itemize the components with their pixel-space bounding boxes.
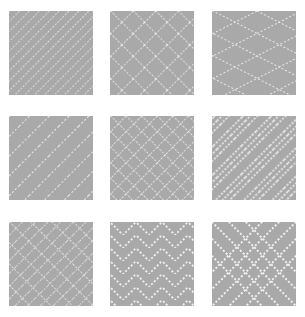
grid-cell: [0, 211, 102, 317]
pattern-tile-7[interactable]: [110, 222, 194, 306]
grid-cell: [0, 0, 102, 106]
pattern-tile-7-art: [110, 222, 194, 306]
pattern-grid-canvas: [0, 0, 305, 317]
pattern-tile-3-art: [9, 116, 93, 200]
pattern-tile-4-art: [110, 116, 194, 200]
grid-cell: [102, 106, 204, 212]
grid-cell: [102, 211, 204, 317]
pattern-tile-5-art: [212, 116, 296, 200]
pattern-tile-4[interactable]: [110, 116, 194, 200]
grid-cell: [0, 106, 102, 212]
pattern-tile-1-art: [110, 11, 194, 95]
grid-cell: [203, 106, 305, 212]
pattern-tile-3[interactable]: [9, 116, 93, 200]
grid-cell: [203, 0, 305, 106]
pattern-tile-1[interactable]: [110, 11, 194, 95]
pattern-tile-0[interactable]: [9, 11, 93, 95]
pattern-tile-2-art: [212, 11, 296, 95]
pattern-tile-8[interactable]: [212, 222, 296, 306]
pattern-tile-5[interactable]: [212, 116, 296, 200]
tile-grid: [0, 0, 305, 317]
pattern-tile-0-art: [9, 11, 93, 95]
pattern-tile-6-art: [9, 222, 93, 306]
grid-cell: [203, 211, 305, 317]
pattern-tile-6[interactable]: [9, 222, 93, 306]
grid-cell: [102, 0, 204, 106]
pattern-tile-8-art: [212, 222, 296, 306]
pattern-tile-2[interactable]: [212, 11, 296, 95]
